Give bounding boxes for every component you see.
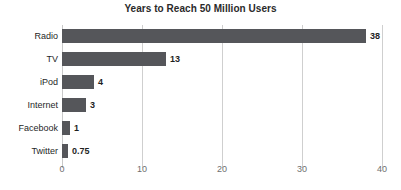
bar[interactable] (62, 75, 94, 89)
y-axis-category-labels: RadioTViPodInternetFacebookTwitter (0, 25, 58, 163)
bar-value-label: 38 (370, 29, 380, 43)
bar-row[interactable]: 13 (62, 48, 382, 71)
bar[interactable] (62, 121, 70, 135)
x-axis-tick-labels: 010203040 (62, 164, 383, 178)
category-label-internet: Internet (2, 98, 58, 112)
bar[interactable] (62, 144, 68, 158)
category-label-ipod: iPod (2, 75, 58, 89)
category-label-tv: TV (2, 52, 58, 66)
x-tick-label-20: 20 (217, 164, 227, 174)
bar-row[interactable]: 4 (62, 71, 382, 94)
bar[interactable] (62, 52, 166, 66)
x-tick-label-40: 40 (377, 164, 387, 174)
bar-value-label: 13 (170, 52, 180, 66)
bar-row[interactable]: 38 (62, 25, 382, 48)
plot-area: 38134310.75 (62, 25, 383, 163)
x-tick-label-10: 10 (137, 164, 147, 174)
bar[interactable] (62, 29, 366, 43)
bar[interactable] (62, 98, 86, 112)
bar-value-label: 4 (98, 75, 103, 89)
gridline-40 (382, 25, 383, 168)
chart-title: Years to Reach 50 Million Users (0, 3, 401, 14)
category-label-radio: Radio (2, 29, 58, 43)
category-label-twitter: Twitter (2, 144, 58, 158)
bar-chart: Years to Reach 50 Million Users RadioTVi… (0, 0, 401, 190)
x-tick-label-30: 30 (297, 164, 307, 174)
bar-row[interactable]: 1 (62, 117, 382, 140)
category-label-facebook: Facebook (2, 121, 58, 135)
bar-value-label: 1 (74, 121, 79, 135)
bar-value-label: 3 (90, 98, 95, 112)
bar-row[interactable]: 0.75 (62, 140, 382, 163)
bar-value-label: 0.75 (72, 144, 90, 158)
x-tick-label-0: 0 (59, 164, 64, 174)
bar-row[interactable]: 3 (62, 94, 382, 117)
